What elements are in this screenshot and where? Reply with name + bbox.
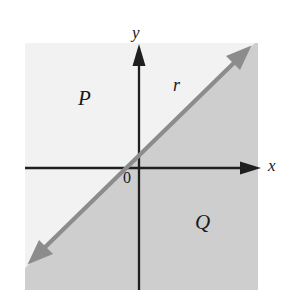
origin-label: 0 (123, 170, 131, 186)
y-axis-label: y (132, 24, 140, 41)
region-label-q: Q (195, 212, 210, 233)
line-label-r: r (173, 76, 180, 94)
figure-canvas (0, 0, 288, 306)
paper-grain (25, 43, 258, 290)
geometry-figure: P Q r x y 0 (0, 0, 288, 306)
region-label-p: P (78, 88, 91, 109)
x-axis-label: x (268, 157, 276, 174)
